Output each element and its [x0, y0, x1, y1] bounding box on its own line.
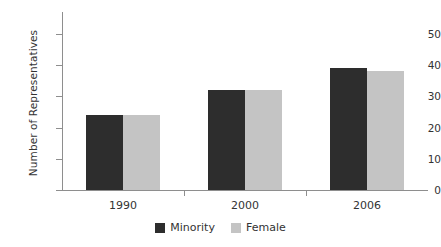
y-tick-mark — [56, 190, 62, 191]
legend-swatch-icon — [231, 223, 241, 233]
x-tick-label: 2006 — [327, 199, 407, 212]
bar-female-2006 — [367, 71, 404, 190]
legend-swatch-icon — [155, 223, 165, 233]
legend-item: Female — [231, 222, 286, 233]
legend-label: Minority — [170, 222, 215, 233]
x-axis-line — [62, 190, 428, 191]
bar-female-2000 — [245, 90, 282, 190]
x-tick-mark — [306, 190, 307, 196]
bar-minority-2006 — [330, 68, 367, 190]
bar-minority-1990 — [86, 115, 123, 190]
bar-minority-2000 — [208, 90, 245, 190]
legend-item: Minority — [155, 222, 215, 233]
y-axis-title: Number of Representatives — [27, 18, 39, 188]
bar-chart: Number of Representatives 01020304050 19… — [0, 0, 441, 247]
bar-female-1990 — [123, 115, 160, 190]
x-tick-label: 1990 — [83, 199, 163, 212]
x-tick-label: 2000 — [205, 199, 285, 212]
plot-area — [62, 12, 428, 190]
chart-legend: MinorityFemale — [0, 222, 441, 233]
legend-label: Female — [246, 222, 286, 233]
x-tick-mark — [184, 190, 185, 196]
